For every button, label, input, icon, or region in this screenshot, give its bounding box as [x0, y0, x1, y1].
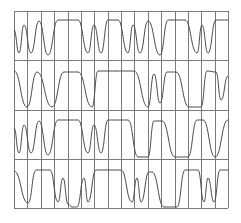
- grid: [14, 11, 229, 209]
- oscilloscope-display: [0, 0, 241, 223]
